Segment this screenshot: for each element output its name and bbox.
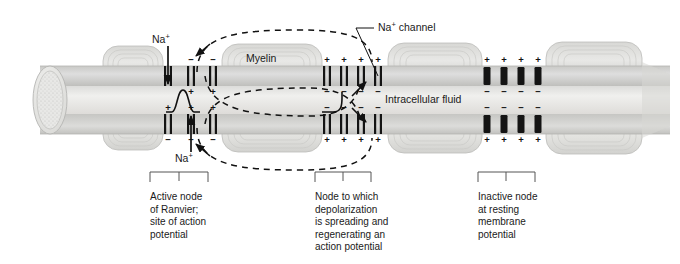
caption-line: potential — [150, 229, 188, 240]
caption-line: potential — [478, 229, 516, 240]
charge-sign: + — [210, 102, 216, 113]
charge-sign: − — [210, 134, 216, 145]
caption-line: Node to which — [315, 191, 378, 202]
na-channel[interactable]: −+ — [501, 102, 508, 145]
charge-sign: − — [484, 102, 490, 113]
na-channel[interactable]: −+ — [535, 102, 542, 145]
label-intracellular-fluid: Intracellular fluid — [385, 93, 462, 105]
charge-sign: + — [535, 54, 541, 65]
caption-line: Active node — [150, 191, 203, 202]
charge-sign: + — [501, 134, 507, 145]
label-na-channel: Na+ channel — [378, 20, 436, 33]
charge-sign: − — [358, 102, 364, 113]
charge-sign: + — [484, 134, 490, 145]
na-channel[interactable]: −+ — [518, 102, 525, 145]
na-channel[interactable]: +− — [518, 54, 525, 97]
caption-line: Inactive node — [478, 191, 538, 202]
charge-sign: − — [188, 54, 194, 65]
caption-line: site of action — [150, 216, 206, 227]
label-na-bottom: Na+ — [175, 151, 193, 164]
charge-sign: − — [535, 102, 541, 113]
charge-sign: + — [188, 86, 194, 97]
charge-sign: + — [324, 54, 330, 65]
charge-sign: + — [358, 134, 364, 145]
saltatory-conduction-diagram: −+−++−+−+−+−+−+−+−−+−+−+−++−+−+−+−−+−+−+… — [0, 0, 680, 264]
charge-sign: − — [165, 134, 171, 145]
charge-sign: + — [518, 54, 524, 65]
charge-sign: − — [324, 86, 330, 97]
charge-sign: + — [341, 54, 347, 65]
caption-line: is spreading and — [315, 216, 388, 227]
caption-line: action potential — [315, 241, 382, 252]
charge-sign: − — [210, 54, 216, 65]
charge-sign: + — [375, 54, 381, 65]
charge-sign: + — [358, 54, 364, 65]
caption-line: regenerating an — [315, 229, 385, 240]
arrow-loop-bottom-left — [196, 144, 210, 156]
caption-line: membrane — [478, 216, 526, 227]
charge-sign: − — [535, 86, 541, 97]
na-channel[interactable]: +− — [484, 54, 491, 97]
caption-active-node: Active nodeof Ranvier;site of actionpote… — [150, 172, 208, 240]
label-myelin: Myelin — [246, 52, 277, 64]
charge-sign: − — [484, 86, 490, 97]
charge-sign: + — [341, 134, 347, 145]
charge-sign: − — [518, 86, 524, 97]
caption-line: depolarization — [315, 204, 377, 215]
charge-sign: + — [518, 134, 524, 145]
charge-sign: + — [324, 134, 330, 145]
charge-sign: − — [501, 86, 507, 97]
charge-sign: + — [535, 134, 541, 145]
caption-line: of Ranvier; — [150, 204, 198, 215]
label-na-top: Na+ — [152, 32, 170, 45]
charge-sign: − — [518, 102, 524, 113]
axon-cylinder — [33, 62, 670, 138]
arrow-loop-top-left — [196, 44, 210, 56]
na-channel[interactable]: −+ — [484, 102, 491, 145]
na-channel[interactable]: +− — [501, 54, 508, 97]
na-channel[interactable]: +− — [535, 54, 542, 97]
charge-sign: − — [501, 102, 507, 113]
axoplasm-stipple — [37, 71, 63, 129]
caption-spreading-node: Node to whichdepolarizationis spreading … — [315, 172, 388, 252]
figure-canvas: −+−++−+−+−+−+−+−+−−+−+−+−++−+−+−+−−+−+−+… — [0, 0, 680, 264]
caption-line: at resting — [478, 204, 519, 215]
charge-sign: + — [375, 134, 381, 145]
charge-sign: + — [484, 54, 490, 65]
charge-sign: − — [375, 102, 381, 113]
charge-sign: + — [501, 54, 507, 65]
caption-inactive-node: Inactive nodeat restingmembranepotential — [478, 172, 538, 240]
charge-sign: − — [375, 86, 381, 97]
caption-group: Active nodeof Ranvier;site of actionpote… — [150, 172, 538, 252]
